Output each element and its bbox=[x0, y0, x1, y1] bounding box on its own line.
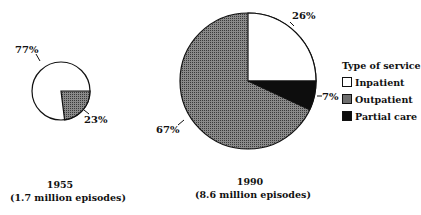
swatch-inpatient-icon bbox=[342, 77, 352, 87]
legend-item-partial-care: Partial care bbox=[342, 110, 421, 122]
caption-1990-episodes: (8.6 million episodes) bbox=[195, 188, 305, 201]
caption-1955-episodes: (1.7 million episodes) bbox=[10, 191, 110, 204]
label-1990-partial-care: 7% bbox=[322, 91, 338, 102]
swatch-outpatient-icon bbox=[342, 94, 352, 104]
label-1955-inpatient: 77% bbox=[15, 44, 38, 55]
legend-label-inpatient: Inpatient bbox=[355, 77, 405, 88]
legend-label-partial-care: Partial care bbox=[355, 111, 417, 122]
pie-1990 bbox=[178, 13, 322, 149]
caption-1990-year: 1990 bbox=[195, 175, 305, 188]
swatch-partial-care-icon bbox=[342, 111, 352, 121]
pie-1955 bbox=[32, 54, 90, 120]
legend-title: Type of service bbox=[342, 60, 421, 71]
label-1955-outpatient: 23% bbox=[84, 114, 107, 125]
legend-item-outpatient: Outpatient bbox=[342, 93, 421, 105]
caption-1955-year: 1955 bbox=[10, 178, 110, 191]
label-1990-inpatient: 26% bbox=[292, 10, 315, 21]
legend-label-outpatient: Outpatient bbox=[355, 94, 413, 105]
legend-item-inpatient: Inpatient bbox=[342, 76, 421, 88]
caption-1990: 1990 (8.6 million episodes) bbox=[195, 175, 305, 201]
legend: Type of service Inpatient Outpatient Par… bbox=[342, 60, 421, 127]
slice-1990-inpatient bbox=[248, 13, 316, 81]
caption-1955: 1955 (1.7 million episodes) bbox=[10, 178, 110, 204]
label-1990-outpatient: 67% bbox=[156, 124, 179, 135]
